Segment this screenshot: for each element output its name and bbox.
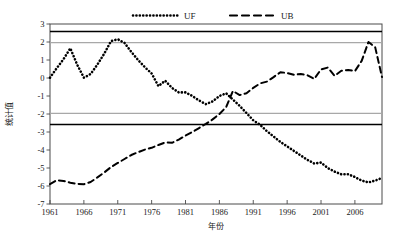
x-tick-label: 1991 [245, 207, 262, 217]
mann-kendall-chart: 3210-1-2-3-4-5-6-71961196619711976198119… [0, 0, 405, 247]
plot-area-frame [50, 24, 382, 204]
y-tick-label: -1 [37, 91, 44, 101]
y-tick-label: 0 [40, 73, 44, 83]
legend-label-UF: UF [184, 11, 196, 21]
x-tick-label: 1976 [143, 207, 160, 217]
x-tick-label: 1961 [42, 207, 59, 217]
y-tick-label: 2 [40, 37, 44, 47]
y-tick-label: -4 [37, 145, 45, 155]
legend-label-UB: UB [281, 11, 294, 21]
y-tick-label: -3 [37, 127, 44, 137]
x-tick-label: 2006 [346, 207, 363, 217]
y-tick-label: 3 [40, 19, 44, 29]
x-tick-label: 1986 [211, 207, 228, 217]
y-tick-label: 1 [40, 55, 44, 65]
chart-canvas: 3210-1-2-3-4-5-6-71961196619711976198119… [0, 0, 405, 247]
y-tick-label: -5 [37, 163, 44, 173]
y-tick-label: -2 [37, 109, 44, 119]
x-tick-label: 1971 [109, 207, 126, 217]
x-tick-label: 1981 [177, 207, 194, 217]
y-axis-title: 统计值 [4, 102, 14, 126]
y-tick-label: -6 [37, 181, 44, 191]
x-tick-label: 2001 [313, 207, 330, 217]
x-tick-label: 1996 [279, 207, 296, 217]
x-tick-label: 1966 [75, 207, 92, 217]
x-axis-title: 年份 [208, 221, 224, 231]
